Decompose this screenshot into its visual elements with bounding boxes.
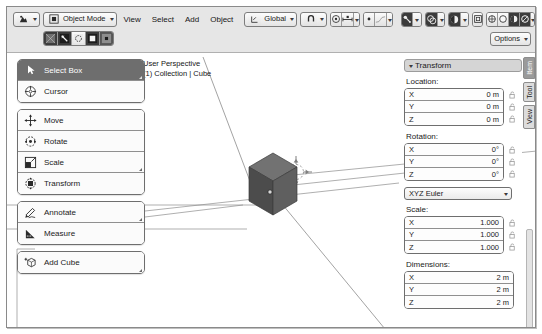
box-select-icon[interactable] — [58, 32, 72, 45]
transform-orientation-dropdown[interactable]: Global ▾ — [244, 12, 297, 27]
sidebar-vertical-tabs: Item Tool View — [523, 57, 535, 132]
wireframe-shading-icon[interactable] — [473, 13, 483, 26]
dimensions-x-field[interactable]: X 2 m — [405, 272, 513, 284]
location-fields: X 0 m Y 0 m Z 0 m — [404, 88, 522, 128]
shading-mode-group[interactable] — [472, 12, 483, 27]
axis-label: X — [409, 145, 414, 154]
rotation-x-field[interactable]: X 0° — [405, 144, 503, 156]
lasso-select-icon[interactable] — [86, 32, 100, 45]
falloff-curve-icon[interactable] — [342, 13, 354, 26]
tool-select-box[interactable]: Select Box — [18, 60, 144, 81]
axis-value: 2 m — [496, 273, 509, 282]
scale-icon — [23, 155, 38, 170]
gizmo-group[interactable]: ▾ — [401, 12, 422, 27]
snap-toggle[interactable]: ▾ — [300, 12, 327, 27]
tool-transform[interactable]: Transform — [18, 173, 144, 194]
cube-object[interactable] — [239, 147, 305, 227]
chevron-down-icon[interactable]: ▾ — [438, 13, 445, 26]
rotation-locks — [509, 143, 516, 180]
tool-move[interactable]: Move — [18, 110, 144, 131]
proportional-edit-group[interactable]: ▾ — [330, 12, 360, 27]
chevron-down-icon[interactable]: ▾ — [531, 13, 534, 26]
rotation-stack: X 0° Y 0° Z 0° — [404, 143, 504, 181]
falloff-smooth-icon[interactable] — [375, 13, 387, 26]
scale-z-field[interactable]: Z 1.000 — [405, 241, 503, 253]
add-cube-icon — [23, 255, 38, 270]
tweak-select-icon[interactable] — [44, 32, 58, 45]
axis-value: 1.000 — [480, 218, 499, 227]
submenu-corner — [139, 218, 142, 221]
scale-x-field[interactable]: X 1.000 — [405, 217, 503, 229]
dimensions-z-field[interactable]: Z 2 m — [405, 296, 513, 308]
mode-dropdown[interactable]: Object Mode ▾ — [43, 12, 117, 27]
lock-icon[interactable] — [509, 217, 516, 229]
lock-icon[interactable] — [509, 89, 516, 101]
snap-settings-group[interactable]: ▾ — [363, 12, 393, 27]
lock-icon[interactable] — [509, 156, 516, 168]
dimensions-y-field[interactable]: Y 2 m — [405, 284, 513, 296]
scale-y-field[interactable]: Y 1.000 — [405, 229, 503, 241]
editor-type-selector[interactable]: ▾ — [13, 12, 40, 27]
cursor-select-icon[interactable] — [100, 32, 113, 45]
menu-select[interactable]: Select — [148, 12, 178, 27]
tool-annotate[interactable]: Annotate — [18, 202, 144, 223]
lock-icon[interactable] — [509, 101, 516, 113]
rotation-z-field[interactable]: Z 0° — [405, 168, 503, 180]
lock-icon[interactable] — [509, 229, 516, 241]
cursor-3d-icon — [23, 84, 38, 99]
location-stack: X 0 m Y 0 m Z 0 m — [404, 88, 504, 126]
tab-label: View — [526, 109, 533, 124]
transform-panel-header[interactable]: ▾ Transform — [404, 59, 522, 72]
tool-rotate[interactable]: Rotate — [18, 131, 144, 152]
lock-icon[interactable] — [509, 144, 516, 156]
sidebar-tab-tool[interactable]: Tool — [523, 82, 535, 103]
tool-group-annotate: Annotate Measure — [17, 201, 145, 245]
preview-shading-icon[interactable] — [520, 13, 531, 26]
sidebar-tab-view[interactable]: View — [523, 105, 535, 128]
options-dropdown[interactable]: Options ▾ — [490, 32, 531, 46]
lock-icon[interactable] — [509, 113, 516, 125]
tool-cursor[interactable]: Cursor — [18, 81, 144, 102]
rotation-y-field[interactable]: Y 0° — [405, 156, 503, 168]
tool-measure[interactable]: Measure — [18, 223, 144, 244]
axis-label: Y — [409, 285, 414, 294]
axis-label: Y — [409, 102, 414, 111]
lock-icon[interactable] — [509, 168, 516, 180]
tool-add-cube[interactable]: Add Cube — [18, 252, 144, 273]
tool-shelf: Select Box Cursor — [17, 59, 145, 280]
move-icon — [23, 113, 38, 128]
overlays-icon[interactable] — [426, 13, 438, 26]
rotation-mode-dropdown[interactable]: XYZ Euler ▾ — [404, 187, 512, 200]
solid-shading-icon[interactable] — [487, 13, 498, 26]
transform-icon — [23, 176, 38, 191]
chevron-down-icon[interactable]: ▾ — [413, 13, 421, 26]
overlays-group[interactable]: ▾ — [425, 12, 446, 27]
xray-group[interactable]: ▾ — [448, 12, 469, 27]
tool-scale[interactable]: Scale — [18, 152, 144, 173]
location-y-field[interactable]: Y 0 m — [405, 101, 503, 113]
menu-view[interactable]: View — [120, 12, 145, 27]
circle-select-icon[interactable] — [72, 32, 86, 45]
sidebar-tab-item[interactable]: Item — [523, 57, 535, 79]
gizmo-icon[interactable] — [402, 13, 413, 26]
lock-icon[interactable] — [509, 241, 516, 253]
axis-value: 0° — [492, 145, 499, 154]
scale-label: Scale: — [406, 205, 522, 214]
menu-object[interactable]: Object — [206, 12, 237, 27]
sidebar-scrollbar[interactable] — [526, 229, 533, 327]
location-z-field[interactable]: Z 0 m — [405, 113, 503, 125]
location-x-field[interactable]: X 0 m — [405, 89, 503, 101]
menu-add[interactable]: Add — [181, 12, 203, 27]
chevron-down-icon[interactable]: ▾ — [354, 13, 359, 26]
chevron-down-icon[interactable]: ▾ — [387, 13, 392, 26]
xray-icon[interactable] — [449, 13, 461, 26]
shading-modes[interactable]: ▾ — [486, 12, 535, 27]
snap-dot-icon[interactable] — [364, 13, 375, 26]
proportional-edit-icon[interactable] — [331, 13, 342, 26]
rendered-shading-icon[interactable] — [509, 13, 520, 26]
viewport-3d[interactable]: User Perspective (1) Collection | Cube — [7, 53, 535, 327]
chevron-down-icon[interactable]: ▾ — [461, 13, 468, 26]
material-shading-icon[interactable] — [498, 13, 509, 26]
select-mode-group[interactable] — [43, 31, 114, 46]
axis-value: 2 m — [496, 285, 509, 294]
